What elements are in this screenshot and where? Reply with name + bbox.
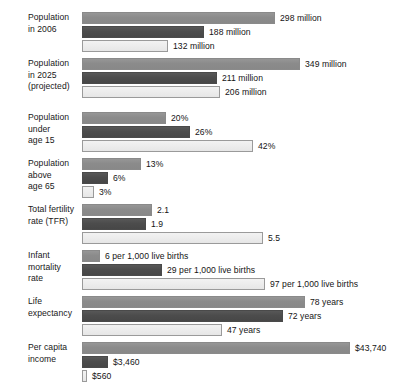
bar-value-label: 78 years <box>310 296 343 309</box>
bar-series-2 <box>82 218 146 230</box>
bar-series-1 <box>82 250 100 262</box>
demographic-comparison-bar-chart: Population in 2006298 million188 million… <box>0 0 407 389</box>
bar-series-3 <box>82 186 94 198</box>
bar-value-label: $3,460 <box>113 356 140 369</box>
bar-series-2 <box>82 72 217 84</box>
bar-series-1 <box>82 296 305 308</box>
group-category-label: Infant mortality rate <box>28 250 82 285</box>
bar-value-label: 206 million <box>225 86 267 99</box>
bar-value-label: $43,740 <box>355 342 386 355</box>
bar-value-label: 1.9 <box>151 218 163 231</box>
bar-value-label: 6% <box>113 172 126 185</box>
bar-value-label: 20% <box>171 112 188 125</box>
group-category-label: Population in 2025 (projected) <box>28 58 82 93</box>
bar-series-3 <box>82 370 87 382</box>
group-category-label: Population under age 15 <box>28 112 82 147</box>
bar-series-2 <box>82 356 108 368</box>
bar-value-label: 42% <box>258 140 275 153</box>
bar-value-label: 26% <box>195 126 212 139</box>
bar-value-label: 13% <box>146 158 163 171</box>
bar-series-2 <box>82 264 162 276</box>
bar-value-label: 2.1 <box>157 204 169 217</box>
group-category-label: Life expectancy <box>28 296 82 319</box>
bar-series-1 <box>82 12 275 24</box>
bar-value-label: 211 million <box>222 72 263 85</box>
bar-value-label: 188 million <box>209 26 251 39</box>
bar-value-label: 97 per 1,000 live births <box>270 278 358 291</box>
bar-value-label: 6 per 1,000 live births <box>105 250 188 263</box>
bar-value-label: 72 years <box>288 310 321 323</box>
bar-series-1 <box>82 342 350 354</box>
group-category-label: Total fertility rate (TFR) <box>28 204 82 227</box>
bar-series-1 <box>82 112 166 124</box>
bar-value-label: 5.5 <box>268 232 280 245</box>
bar-value-label: 132 million <box>173 40 215 53</box>
bar-value-label: 47 years <box>227 324 260 337</box>
bar-series-1 <box>82 158 141 170</box>
bar-series-1 <box>82 58 300 70</box>
bar-value-label: 349 million <box>305 58 347 71</box>
bar-value-label: 298 million <box>280 12 322 25</box>
group-category-label: Population in 2006 <box>28 12 82 35</box>
bar-series-2 <box>82 172 108 184</box>
group-category-label: Per capita income <box>28 342 82 365</box>
bar-series-2 <box>82 26 204 38</box>
bar-value-label: 3% <box>99 186 112 199</box>
bar-series-2 <box>82 126 190 138</box>
bar-series-1 <box>82 204 152 216</box>
bar-series-3 <box>82 86 220 98</box>
bar-series-3 <box>82 324 222 336</box>
group-category-label: Population above age 65 <box>28 158 82 193</box>
bar-series-3 <box>82 140 253 152</box>
bar-series-3 <box>82 278 265 290</box>
bar-value-label: 29 per 1,000 live births <box>167 264 255 277</box>
bar-series-3 <box>82 40 168 52</box>
bar-series-3 <box>82 232 263 244</box>
bar-value-label: $560 <box>92 370 111 383</box>
bar-series-2 <box>82 310 283 322</box>
